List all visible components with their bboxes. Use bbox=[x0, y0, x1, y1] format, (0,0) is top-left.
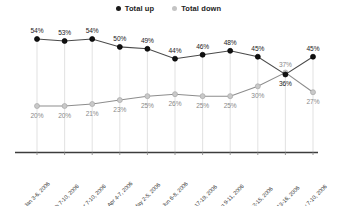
data-label-total-up: 36% bbox=[279, 80, 292, 87]
total-down-data-point[interactable] bbox=[228, 94, 233, 99]
total-down-data-point[interactable] bbox=[311, 90, 316, 95]
total-down-data-point[interactable] bbox=[145, 94, 150, 99]
data-label-total-down: 26% bbox=[169, 100, 182, 107]
total-up-data-point[interactable] bbox=[173, 56, 178, 61]
total-up-data-point[interactable] bbox=[90, 37, 95, 42]
data-label-total-down: 37% bbox=[279, 60, 292, 67]
line-chart: Total up Total down 54%53%54%50%49%44%46… bbox=[0, 0, 337, 206]
total-up-data-point[interactable] bbox=[35, 37, 40, 42]
total-up-data-point[interactable] bbox=[145, 46, 150, 51]
data-label-total-down: 27% bbox=[307, 98, 320, 105]
data-label-total-up: 54% bbox=[31, 27, 44, 34]
total-up-data-point[interactable] bbox=[255, 54, 260, 59]
data-label-total-down: 25% bbox=[141, 102, 154, 109]
total-down-data-point[interactable] bbox=[90, 102, 95, 107]
data-label-total-down: 23% bbox=[113, 106, 126, 113]
data-label-total-down: 25% bbox=[196, 102, 209, 109]
data-label-total-up: 48% bbox=[224, 38, 237, 45]
total-down-data-point[interactable] bbox=[200, 94, 205, 99]
data-label-total-down: 21% bbox=[86, 110, 99, 117]
data-label-total-up: 54% bbox=[86, 27, 99, 34]
data-label-total-up: 53% bbox=[58, 28, 71, 35]
data-label-total-up: 44% bbox=[169, 46, 182, 53]
total-up-data-point[interactable] bbox=[62, 38, 67, 43]
data-label-total-down: 20% bbox=[31, 112, 44, 119]
total-up-data-point[interactable] bbox=[283, 72, 288, 77]
total-up-data-point[interactable] bbox=[117, 44, 122, 49]
total-down-data-point[interactable] bbox=[173, 92, 178, 97]
data-label-total-up: 49% bbox=[141, 36, 154, 43]
data-label-total-down: 20% bbox=[58, 112, 71, 119]
total-up-data-point[interactable] bbox=[200, 52, 205, 57]
total-up-data-point[interactable] bbox=[228, 48, 233, 53]
data-label-total-up: 50% bbox=[113, 34, 126, 41]
data-label-total-up: 45% bbox=[251, 44, 264, 51]
total-up-data-point[interactable] bbox=[311, 54, 316, 59]
data-label-total-down: 25% bbox=[224, 102, 237, 109]
data-label-total-up: 46% bbox=[196, 42, 209, 49]
total-down-data-point[interactable] bbox=[62, 104, 67, 109]
total-down-data-point[interactable] bbox=[255, 84, 260, 89]
total-down-data-point[interactable] bbox=[117, 98, 122, 103]
total-down-data-point[interactable] bbox=[35, 104, 40, 109]
data-label-total-down: 30% bbox=[251, 92, 264, 99]
data-label-total-up: 45% bbox=[307, 44, 320, 51]
